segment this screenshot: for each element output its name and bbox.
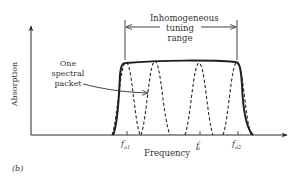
packet-2 <box>141 61 170 135</box>
tuning-range-line2: tuning <box>150 23 210 33</box>
tuning-range-line3: range <box>150 33 210 43</box>
packet-callout-arrow <box>83 84 148 93</box>
tick-label-fa-prime: f′a <box>196 140 200 151</box>
tuning-range-line1: Inhomogeneous <box>150 13 210 23</box>
tuning-range-label: Inhomogeneous tuning range <box>150 13 210 43</box>
tick-label-fa2: fa2 <box>232 140 241 150</box>
absorption-diagram: Inhomogeneous tuning range One spectral … <box>0 0 293 181</box>
tick-marks <box>127 131 238 135</box>
spectral-packet-label: One spectral packet <box>48 59 88 89</box>
x-axis-label: Frequency <box>144 149 190 158</box>
panel-label: (b) <box>12 165 23 173</box>
y-axis-label: Absorption <box>11 59 19 109</box>
packet-line2: spectral <box>48 69 88 79</box>
inhomogeneous-envelope <box>113 61 253 135</box>
packet-line3: packet <box>48 79 88 89</box>
tick-label-fa1: fa1 <box>121 140 130 150</box>
spectral-packets <box>112 61 251 135</box>
packet-line1: One <box>48 59 88 69</box>
packet-3 <box>185 63 213 135</box>
